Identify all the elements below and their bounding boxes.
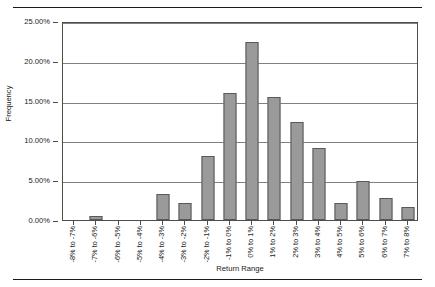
- bar: [379, 198, 392, 220]
- y-tick-label: 15.00%: [24, 98, 50, 106]
- y-tick-mark: [53, 22, 58, 23]
- bar-slot: [375, 23, 397, 220]
- x-tick-mark: [207, 221, 208, 225]
- bar: [401, 207, 414, 220]
- y-tick-mark: [53, 141, 58, 142]
- y-tick-label: 10.00%: [24, 137, 50, 145]
- x-tick-mark: [229, 221, 230, 225]
- x-tick-label: 7% to 8%: [403, 226, 411, 258]
- bar-slot: [241, 23, 263, 220]
- bar-slot: [174, 23, 196, 220]
- x-tick-mark: [251, 221, 252, 225]
- x-axis-tick-labels: -8% to -7%-7% to -6%-6% to -5%-5% to -4%…: [62, 221, 418, 265]
- y-tick-label: 5.00%: [28, 177, 50, 185]
- x-tick-mark: [318, 221, 319, 225]
- bar: [246, 42, 259, 220]
- bar: [335, 203, 348, 221]
- y-axis-tick-labels: 0.00%5.00%10.00%15.00%20.00%25.00%: [0, 22, 58, 221]
- x-tick-label: -4% to -3%: [158, 226, 166, 263]
- y-tick-mark: [53, 221, 58, 222]
- x-tick-label: 4% to 5%: [336, 226, 344, 258]
- plot-area: [62, 22, 418, 221]
- bar-slot: [286, 23, 308, 220]
- y-tick-mark: [53, 181, 58, 182]
- x-tick-mark: [118, 221, 119, 225]
- bar-slot: [352, 23, 374, 220]
- bar: [223, 93, 236, 220]
- bar: [290, 122, 303, 220]
- bar-slot: [63, 23, 85, 220]
- bar-slot: [85, 23, 107, 220]
- bar-slot: [197, 23, 219, 220]
- y-tick-label: 25.00%: [24, 18, 50, 26]
- bar: [268, 97, 281, 220]
- x-tick-mark: [140, 221, 141, 225]
- x-tick-mark: [296, 221, 297, 225]
- bottom-rule: [13, 279, 422, 280]
- bar-slot: [152, 23, 174, 220]
- x-tick-mark: [95, 221, 96, 225]
- x-tick-mark: [162, 221, 163, 225]
- x-tick-mark: [184, 221, 185, 225]
- x-tick-label: 5% to 6%: [358, 226, 366, 258]
- bar-slot: [308, 23, 330, 220]
- bar-series: [63, 23, 417, 220]
- x-axis-title: Return Range: [62, 264, 418, 273]
- bar-slot: [219, 23, 241, 220]
- bar: [179, 203, 192, 221]
- bar-slot: [263, 23, 285, 220]
- bar-slot: [108, 23, 130, 220]
- bar-slot: [397, 23, 419, 220]
- top-rule: [13, 7, 422, 8]
- y-tick-label: 20.00%: [24, 58, 50, 66]
- x-tick-mark: [273, 221, 274, 225]
- bar: [90, 216, 103, 220]
- x-tick-label: -3% to -2%: [180, 226, 188, 263]
- y-tick-label: 0.00%: [28, 217, 50, 225]
- bar: [357, 181, 370, 220]
- figure-container: Frequency 0.00%5.00%10.00%15.00%20.00%25…: [0, 0, 435, 287]
- y-tick-mark: [53, 102, 58, 103]
- bar: [201, 156, 214, 220]
- x-tick-label: -1% to 0%: [225, 226, 233, 260]
- x-tick-mark: [340, 221, 341, 225]
- x-tick-label: 3% to 4%: [314, 226, 322, 258]
- x-tick-label: -8% to -7%: [69, 226, 77, 263]
- x-tick-mark: [385, 221, 386, 225]
- x-tick-label: -6% to -5%: [114, 226, 122, 263]
- bar-slot: [130, 23, 152, 220]
- x-tick-label: -5% to -4%: [136, 226, 144, 263]
- x-tick-mark: [362, 221, 363, 225]
- bar: [312, 148, 325, 220]
- x-tick-label: 0% to 1%: [247, 226, 255, 258]
- x-tick-label: -2% to -1%: [203, 226, 211, 263]
- x-tick-mark: [407, 221, 408, 225]
- y-tick-mark: [53, 62, 58, 63]
- x-tick-mark: [73, 221, 74, 225]
- bar: [157, 194, 170, 220]
- x-tick-label: -7% to -6%: [91, 226, 99, 263]
- bar-slot: [330, 23, 352, 220]
- x-tick-label: 1% to 2%: [269, 226, 277, 258]
- x-tick-label: 2% to 3%: [292, 226, 300, 258]
- x-tick-label: 6% to 7%: [381, 226, 389, 258]
